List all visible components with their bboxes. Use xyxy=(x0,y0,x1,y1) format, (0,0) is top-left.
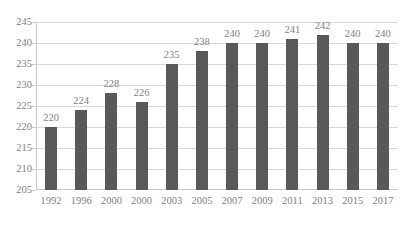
y-axis-tick-mark xyxy=(32,106,36,107)
bar-value-label: 235 xyxy=(164,50,180,61)
bar-value-label: 226 xyxy=(134,88,150,99)
bar[interactable] xyxy=(256,43,268,190)
bar-slot: 240 xyxy=(338,22,368,190)
bar[interactable] xyxy=(377,43,389,190)
y-axis-tick-mark xyxy=(32,22,36,23)
bar[interactable] xyxy=(196,51,208,190)
y-axis-tick-mark xyxy=(32,127,36,128)
y-axis-tick-label: 230 xyxy=(0,80,32,91)
y-axis-tick-mark xyxy=(32,169,36,170)
y-axis-tick-mark xyxy=(32,64,36,65)
y-axis-tick-label: 235 xyxy=(0,59,32,70)
x-axis-tick-label: 2013 xyxy=(312,196,333,207)
x-axis-tick-label: 2015 xyxy=(342,196,363,207)
y-axis-tick-label: 205 xyxy=(0,185,32,196)
bar-slot: 220 xyxy=(36,22,66,190)
bar-slot: 226 xyxy=(127,22,157,190)
bar[interactable] xyxy=(286,39,298,190)
bar-value-label: 240 xyxy=(224,29,240,40)
bar-value-label: 240 xyxy=(254,29,270,40)
bar-value-label: 240 xyxy=(375,29,391,40)
bar-slot: 238 xyxy=(187,22,217,190)
y-axis-tick-mark xyxy=(32,148,36,149)
x-axis-tick-label: 2000 xyxy=(131,196,152,207)
x-axis-tick-label: 2011 xyxy=(282,196,303,207)
bar[interactable] xyxy=(136,102,148,190)
bar-slot: 241 xyxy=(277,22,307,190)
x-axis-tick-label: 2003 xyxy=(161,196,182,207)
x-axis-tick-label: 2005 xyxy=(191,196,212,207)
y-axis-tick-label: 240 xyxy=(0,38,32,49)
bar-value-label: 242 xyxy=(315,21,331,32)
bar-slot: 242 xyxy=(308,22,338,190)
x-axis-tick-label: 1996 xyxy=(71,196,92,207)
bar-slot: 224 xyxy=(66,22,96,190)
bar-value-label: 241 xyxy=(285,25,301,36)
bar-value-label: 224 xyxy=(73,96,89,107)
bar[interactable] xyxy=(45,127,57,190)
x-axis-tick-label: 1992 xyxy=(41,196,62,207)
bar[interactable] xyxy=(105,93,117,190)
x-axis-tick-label: 2000 xyxy=(101,196,122,207)
y-axis-tick-label: 220 xyxy=(0,122,32,133)
y-axis-tick-label: 225 xyxy=(0,101,32,112)
bar-slot: 228 xyxy=(96,22,126,190)
bar[interactable] xyxy=(226,43,238,190)
bar[interactable] xyxy=(347,43,359,190)
y-axis-tick-label: 210 xyxy=(0,164,32,175)
y-axis-tick-mark xyxy=(32,85,36,86)
y-axis-tick-mark xyxy=(32,190,36,191)
y-axis-tick-mark xyxy=(32,43,36,44)
bars-layer: 220224228226235238240240241242240240 xyxy=(36,22,398,190)
bar[interactable] xyxy=(75,110,87,190)
bar-slot: 235 xyxy=(157,22,187,190)
bar[interactable] xyxy=(317,35,329,190)
plot-area: 220224228226235238240240241242240240 xyxy=(36,22,398,190)
bar-value-label: 220 xyxy=(43,113,59,124)
bar-value-label: 240 xyxy=(345,29,361,40)
y-axis-tick-label: 215 xyxy=(0,143,32,154)
x-axis-tick-label: 2017 xyxy=(372,196,393,207)
bar[interactable] xyxy=(166,64,178,190)
bar-value-label: 228 xyxy=(104,79,120,90)
x-axis-tick-label: 2007 xyxy=(222,196,243,207)
bar-slot: 240 xyxy=(368,22,398,190)
bar-slot: 240 xyxy=(247,22,277,190)
x-axis-tick-label: 2009 xyxy=(252,196,273,207)
bar-slot: 240 xyxy=(217,22,247,190)
y-axis-tick-label: 245 xyxy=(0,17,32,28)
bar-chart: 220224228226235238240240241242240240 245… xyxy=(0,0,416,228)
bar-value-label: 238 xyxy=(194,37,210,48)
